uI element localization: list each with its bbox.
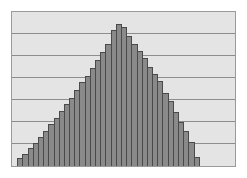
histogram-screenshot [0, 0, 247, 178]
plot-area [12, 12, 235, 166]
chart-frame [11, 11, 236, 167]
bar-series [12, 12, 235, 166]
bar [194, 157, 200, 166]
